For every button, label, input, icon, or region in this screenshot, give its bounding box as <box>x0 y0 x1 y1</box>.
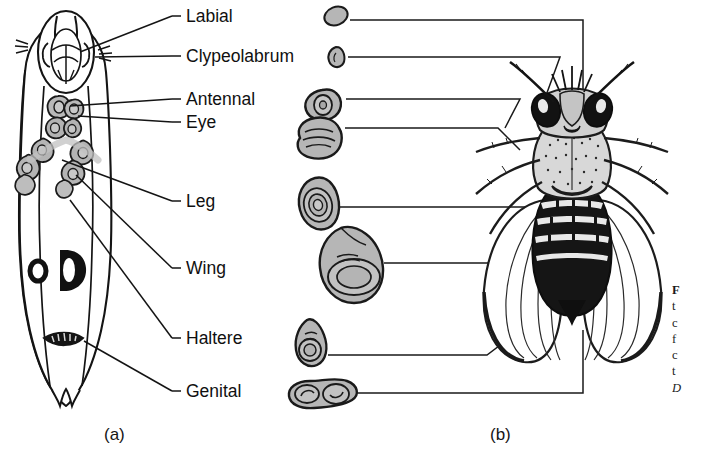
caption-line-2: t <box>672 298 717 314</box>
labial-disc <box>322 3 351 29</box>
label-leg: Leg <box>186 193 215 211</box>
panel-a-larva <box>15 11 172 406</box>
label-clypeolabrum: Clypeolabrum <box>186 48 294 66</box>
clypeolabrum-disc <box>328 47 344 67</box>
antennal-disc <box>305 89 341 120</box>
leg-disc <box>299 178 339 230</box>
caption-line-3: c <box>672 315 717 331</box>
panel-a-caption: (a) <box>104 425 125 445</box>
imaginal-disc-figure <box>0 0 717 450</box>
label-haltere: Haltere <box>186 330 242 348</box>
caption-line-4: f <box>672 331 717 347</box>
figure-caption-clipped: F t c f c t D <box>672 282 717 450</box>
wing-disc <box>320 227 383 303</box>
label-eye: Eye <box>186 114 216 132</box>
label-genital: Genital <box>186 383 241 401</box>
panel-a-label-ticks <box>172 16 181 391</box>
label-labial: Labial <box>186 8 233 26</box>
haltere-disc <box>296 319 327 366</box>
label-wing: Wing <box>186 260 226 278</box>
genital-disc <box>289 379 357 408</box>
caption-line-1: F <box>672 282 717 298</box>
caption-line-6: t <box>672 363 717 379</box>
caption-line-5: c <box>672 347 717 363</box>
panel-b-caption: (b) <box>490 425 511 445</box>
caption-line-7: D <box>672 380 717 396</box>
label-antennal: Antennal <box>186 91 255 109</box>
adult-fly-illustration <box>476 62 668 362</box>
eye-disc <box>298 117 342 158</box>
